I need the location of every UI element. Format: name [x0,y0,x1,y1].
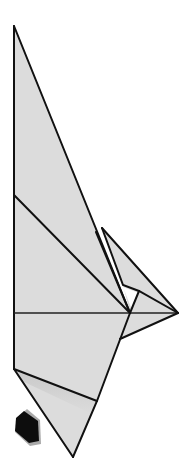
push-arrow-icon [15,409,41,446]
origami-diagram [0,0,189,475]
